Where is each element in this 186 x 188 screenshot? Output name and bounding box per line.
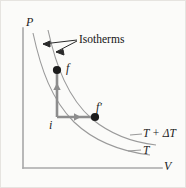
isotherms-annotation-label: Isotherms — [79, 34, 124, 46]
path-i-to-f-arrowhead — [53, 83, 60, 90]
x-axis-label: V — [164, 160, 171, 172]
isotherm-curve-T — [33, 33, 150, 155]
isotherms-arrowhead-left — [43, 41, 50, 47]
temp-leader-lower — [128, 150, 141, 151]
point-i-label: i — [49, 119, 52, 131]
process-paths-group — [53, 70, 95, 121]
pv-diagram-figure: P V Isotherms f f′ i T + ΔT T — [0, 0, 186, 188]
state-points-group — [53, 66, 99, 121]
isotherm-curves-group — [33, 30, 156, 155]
point-fprime-dot — [91, 113, 99, 121]
point-fprime-label: f′ — [96, 101, 102, 113]
temp-leader-upper — [130, 134, 142, 135]
y-axis-label: P — [26, 16, 33, 28]
isotherm-label-T-plus-delta-T: T + ΔT — [143, 128, 176, 140]
point-f-dot — [53, 66, 61, 74]
isotherm-label-T: T — [143, 145, 149, 157]
path-i-to-fprime-arrowhead — [74, 113, 81, 120]
point-f-label: f — [66, 62, 69, 74]
axes-group — [23, 28, 162, 168]
isotherms-leader-group — [43, 40, 77, 55]
isotherms-arrowhead-right — [56, 50, 64, 56]
